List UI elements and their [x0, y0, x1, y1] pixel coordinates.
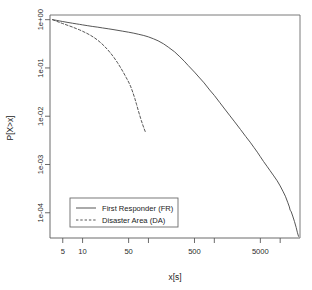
y-tick-label-0: 1e+00	[36, 9, 45, 30]
x-axis-title: x[s]	[168, 272, 181, 282]
legend-label-fr: First Responder (FR)	[102, 204, 174, 213]
chart-legend[interactable]: First Responder (FR) Disaster Area (DA)	[70, 198, 178, 227]
x-tick-label-1: 10	[78, 247, 86, 256]
ccdf-log-log-plot: 1e+001e-011e-021e-031e-04 510505005000 x…	[0, 0, 312, 290]
x-tick-label-2: 50	[124, 247, 132, 256]
y-tick-label-3: 1e-03	[36, 155, 45, 174]
y-axis-title: P[X>x]	[5, 116, 15, 141]
y-tick-label-2: 1e-02	[36, 107, 45, 126]
x-tick-label-0: 5	[61, 247, 65, 256]
x-tick-label-6: 5000	[252, 247, 269, 256]
x-tick-label-4: 500	[188, 247, 201, 256]
chart-container: 1e+001e-011e-021e-031e-04 510505005000 x…	[0, 0, 312, 290]
legend-label-da: Disaster Area (DA)	[102, 216, 166, 225]
y-tick-label-4: 1e-04	[36, 203, 45, 222]
y-tick-label-1: 1e-01	[36, 58, 45, 77]
